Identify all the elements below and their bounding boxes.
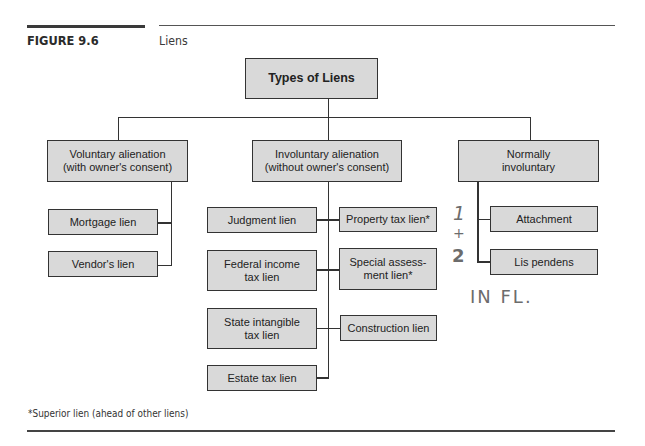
connector-mortgage <box>157 222 172 224</box>
connector-to-involuntary <box>328 117 330 140</box>
node-construction-lien-label: Construction lien <box>348 322 430 335</box>
node-special-line1: Special assess- <box>349 256 426 269</box>
connector-estate <box>316 377 329 379</box>
node-mortgage-lien-label: Mortgage lien <box>70 216 137 229</box>
connector-to-normally-involuntary <box>530 117 532 140</box>
node-federal-line2: tax lien <box>224 271 300 284</box>
node-lis-pendens-label: Lis pendens <box>514 256 573 269</box>
footnote: *Superior lien (ahead of other liens) <box>28 407 188 419</box>
category-involuntary-line1: Involuntary alienation <box>265 148 389 161</box>
node-attachment: Attachment <box>490 206 598 232</box>
node-mortgage-lien: Mortgage lien <box>48 209 158 235</box>
category-normally-line2: involuntary <box>502 161 555 174</box>
header-rule-thin <box>159 25 615 26</box>
figure-label: FIGURE 9.6 <box>27 33 99 48</box>
handwritten-number-2: 2 <box>452 245 465 266</box>
connector-to-voluntary <box>118 117 120 140</box>
category-involuntary-alienation: Involuntary alienation (without owner's … <box>252 140 402 182</box>
root-node-label: Types of Liens <box>268 72 355 85</box>
node-state-line1: State intangible <box>224 316 300 329</box>
connector-state <box>316 328 340 330</box>
category-voluntary-line1: Voluntary alienation <box>63 148 172 161</box>
category-voluntary-line2: (with owner's consent) <box>63 161 172 174</box>
node-judgment-lien: Judgment lien <box>207 207 317 233</box>
node-state-line2: tax lien <box>224 329 300 342</box>
node-attachment-label: Attachment <box>516 213 572 226</box>
connector-attachment <box>477 219 491 221</box>
node-estate-tax-lien-label: Estate tax lien <box>227 372 296 385</box>
node-federal-line1: Federal income <box>224 258 300 271</box>
node-state-intangible-tax-lien: State intangible tax lien <box>207 308 317 349</box>
category-involuntary-line2: (without owner's consent) <box>265 161 389 174</box>
category-normally-line1: Normally <box>502 148 555 161</box>
node-lis-pendens: Lis pendens <box>490 249 598 275</box>
node-construction-lien: Construction lien <box>340 315 437 341</box>
connector-normally-trunk <box>477 182 479 262</box>
figure-title: Liens <box>159 33 188 48</box>
connector-vendors <box>157 265 172 267</box>
node-judgment-lien-label: Judgment lien <box>228 214 297 227</box>
connector-involuntary-trunk <box>328 182 330 378</box>
connector-federal <box>316 269 340 271</box>
connector-root-horizontal <box>118 117 531 119</box>
header-rule-thick <box>27 25 145 28</box>
handwritten-number-1: 1 <box>453 202 465 224</box>
category-voluntary-alienation: Voluntary alienation (with owner's conse… <box>47 140 188 182</box>
node-special-line2: ment lien* <box>349 269 426 282</box>
node-property-tax-lien: Property tax lien* <box>339 207 437 232</box>
node-estate-tax-lien: Estate tax lien <box>207 365 317 391</box>
footer-rule <box>27 430 615 432</box>
connector-lis-pendens <box>477 261 491 263</box>
category-normally-involuntary: Normally involuntary <box>458 140 599 182</box>
node-special-assessment-lien: Special assess- ment lien* <box>339 248 437 290</box>
node-federal-income-tax-lien: Federal income tax lien <box>207 250 317 291</box>
node-vendors-lien: Vendor's lien <box>48 251 158 277</box>
node-property-tax-lien-label: Property tax lien* <box>346 213 430 226</box>
connector-voluntary-trunk <box>171 182 173 266</box>
handwritten-note-in-fl: IN FL. <box>470 286 533 307</box>
connector-judgment <box>316 219 340 221</box>
root-node-types-of-liens: Types of Liens <box>245 58 378 99</box>
node-vendors-lien-label: Vendor's lien <box>72 258 135 271</box>
handwritten-plus: + <box>453 225 465 241</box>
connector-root-down <box>328 99 330 118</box>
